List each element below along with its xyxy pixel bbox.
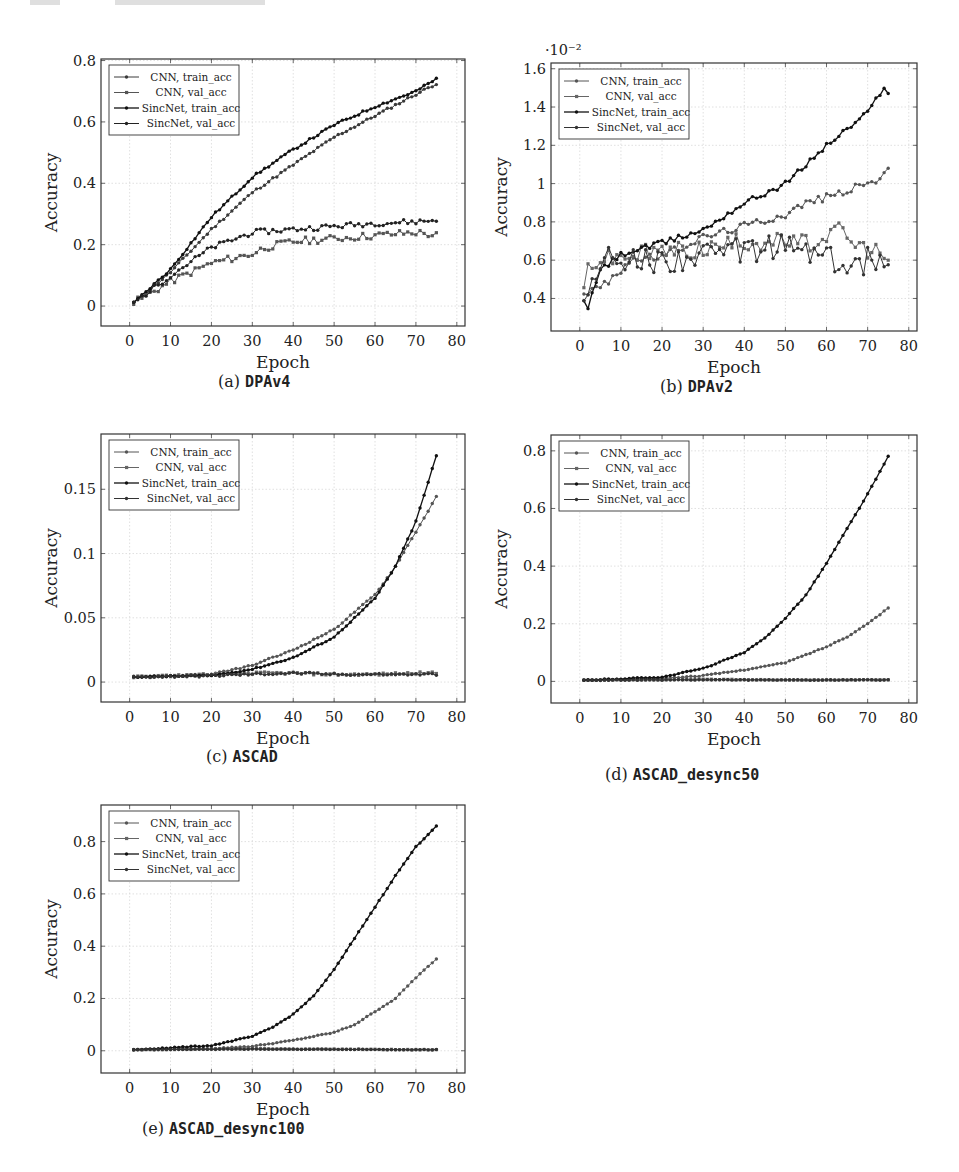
y-tick-label: 0.8	[73, 834, 96, 850]
x-tick-label: 70	[407, 1080, 425, 1096]
legend-label: CNN, train_acc	[150, 817, 231, 830]
x-tick-label: 60	[366, 1080, 384, 1096]
y-tick-label: 0.6	[73, 886, 96, 902]
axes: 0102030405060708000.20.40.60.8EpochAccur…	[41, 805, 466, 1119]
caption-e: (e) ASCAD_desync100	[142, 1119, 305, 1138]
y-tick-label: 0.2	[73, 990, 96, 1006]
y-tick-label: 0	[87, 1043, 96, 1059]
x-tick-label: 0	[125, 1080, 134, 1096]
y-tick-label: 0.4	[73, 938, 96, 954]
chart-e: 0102030405060708000.20.40.60.8EpochAccur…	[0, 0, 959, 1172]
legend-label: CNN, val_acc	[155, 832, 226, 845]
x-axis-label: Epoch	[256, 1099, 310, 1119]
x-tick-label: 40	[284, 1080, 302, 1096]
x-tick-label: 80	[448, 1080, 466, 1096]
series-cnn-train-acc	[132, 957, 438, 1051]
x-tick-label: 10	[161, 1080, 179, 1096]
legend-label: SincNet, val_acc	[147, 863, 235, 876]
x-tick-label: 30	[243, 1080, 261, 1096]
x-tick-label: 20	[202, 1080, 220, 1096]
y-axis-label: Accuracy	[41, 899, 61, 980]
caption-label: (e)	[142, 1119, 169, 1138]
x-tick-label: 50	[325, 1080, 343, 1096]
legend-label: SincNet, train_acc	[142, 848, 241, 861]
legend: CNN, train_accCNN, val_accSincNet, train…	[109, 811, 240, 881]
caption-dataset: ASCAD_desync100	[169, 1120, 304, 1138]
